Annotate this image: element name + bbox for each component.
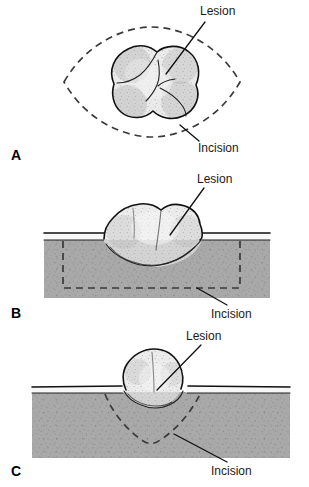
label-incision-a: Incision — [198, 141, 239, 155]
lesion-excision-figure: Lesion Incision A — [0, 0, 309, 487]
label-lesion-c: Lesion — [186, 329, 221, 343]
panel-letter-c: C — [11, 463, 21, 479]
panel-letter-b: B — [11, 305, 21, 321]
panel-letter-a: A — [11, 147, 21, 163]
label-lesion-a: Lesion — [200, 4, 235, 18]
label-incision-b: Incision — [211, 307, 252, 321]
figure-root: Lesion Incision A — [0, 0, 309, 487]
label-lesion-b: Lesion — [197, 172, 232, 186]
label-incision-c: Incision — [211, 464, 252, 478]
